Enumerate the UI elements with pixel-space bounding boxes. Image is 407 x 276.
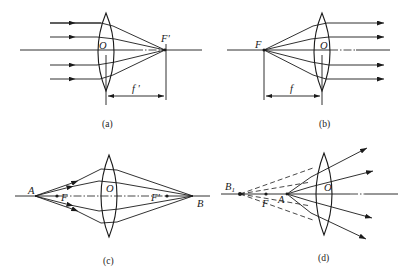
emergent-ray [311, 148, 367, 177]
virtual-image-label: B1 [225, 181, 235, 194]
focal-length-label: f ' [132, 83, 141, 94]
panel-c: A F O F' B (c) [15, 155, 210, 267]
panel-caption: (d) [318, 253, 329, 264]
panel-d: B1 F A O (d) [221, 148, 398, 264]
panel-caption: (c) [103, 256, 114, 267]
emergent-ray [310, 171, 373, 187]
incident-ray [287, 194, 310, 201]
refracted-ray [115, 50, 165, 62]
object-point-dot [286, 193, 289, 196]
lens-center-label: O [324, 182, 332, 193]
virtual-ray-extension [240, 168, 313, 194]
refracted-ray [113, 50, 165, 75]
panel-caption: (a) [102, 119, 113, 130]
emergent-ray [311, 213, 366, 239]
virtual-ray-extension [240, 182, 311, 194]
ray-in-lens [313, 75, 326, 79]
incident-ray [287, 187, 310, 194]
incident-ray [264, 50, 313, 75]
focal-point-dot [264, 192, 267, 195]
ray-in-lens [101, 23, 113, 26]
virtual-ray-extension [240, 194, 313, 220]
panel-b: F O f (b) [227, 13, 390, 130]
refracted-ray [113, 26, 165, 50]
virtual-image-point [238, 192, 242, 196]
object-point-label: A [27, 185, 35, 196]
panel-a: O F' f ' (a) [20, 13, 202, 130]
panel-caption: (b) [319, 119, 330, 130]
focal-point-dot [165, 194, 168, 197]
focus-label: F' [160, 33, 170, 44]
focus-right-label: F' [150, 192, 160, 203]
focus-label: F [254, 39, 262, 50]
lens-diagram-figure: O F' f ' (a) F O f (b) [0, 0, 407, 276]
lens-center-label: O [320, 40, 328, 51]
incident-ray [264, 26, 313, 50]
object-point-label: A [277, 194, 285, 205]
incident-ray [287, 194, 311, 213]
focal-point-dot [55, 194, 58, 197]
ray-in-lens [311, 37, 329, 39]
incident-ray [264, 39, 311, 50]
image-point-label: B [197, 198, 204, 209]
ray-in-lens [101, 169, 117, 170]
ray-in-lens [313, 23, 327, 26]
ray-in-lens [101, 222, 117, 223]
focus-label: F [261, 198, 269, 209]
lens-center-label: O [99, 40, 107, 51]
ray-in-lens [311, 62, 329, 65]
refracted-ray [115, 39, 165, 50]
ray-in-lens [97, 37, 115, 39]
focal-length-label: f [290, 83, 295, 94]
lens-center-label: O [106, 183, 114, 194]
focus-left-label: F [60, 192, 68, 203]
emergent-ray [310, 201, 372, 218]
incident-ray [264, 50, 311, 62]
